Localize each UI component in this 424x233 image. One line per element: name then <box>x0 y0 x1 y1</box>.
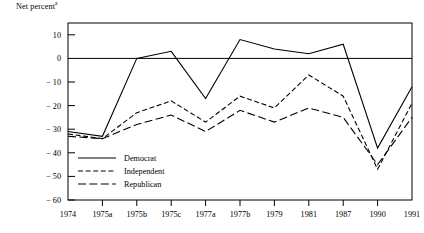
y-axis-ticks <box>68 35 75 200</box>
legend-label-independent: Independent <box>124 167 165 176</box>
y-tick-label: − 40 <box>46 149 61 158</box>
y-tick-label: − 50 <box>46 172 61 181</box>
x-tick-label: 1977a <box>196 210 216 219</box>
chart-plot-area: 100− 10− 20− 30− 40− 50− 60 19741975a197… <box>0 0 424 233</box>
x-tick-label: 1979 <box>266 210 282 219</box>
x-tick-label: 1987 <box>335 210 351 219</box>
x-axis-ticks <box>102 200 377 206</box>
y-tick-label: 10 <box>53 31 61 40</box>
chart-legend: DemocratIndependentRepublican <box>78 154 165 189</box>
data-series-group <box>68 40 412 170</box>
y-tick-label: − 10 <box>46 78 61 87</box>
series-line-republican <box>68 108 412 165</box>
x-tick-label: 1975b <box>127 210 147 219</box>
y-tick-label: − 30 <box>46 125 61 134</box>
legend-label-republican: Republican <box>124 180 161 189</box>
y-tick-label: − 20 <box>46 102 61 111</box>
x-tick-label: 1991 <box>404 210 420 219</box>
x-tick-label: 1975a <box>92 210 112 219</box>
x-tick-label: 1981 <box>301 210 317 219</box>
x-tick-label: 1990 <box>369 210 385 219</box>
y-tick-label: 0 <box>57 54 61 63</box>
y-axis-tick-labels: 100− 10− 20− 30− 40− 50− 60 <box>46 31 61 205</box>
plot-frame <box>68 23 412 200</box>
chart-container: Net percenta 100− 10− 20− 30− 40− 50− 60… <box>0 0 424 233</box>
x-tick-label: 1977b <box>230 210 250 219</box>
series-line-independent <box>68 75 412 169</box>
legend-label-democrat: Democrat <box>124 154 157 163</box>
x-tick-label: 1974 <box>60 210 76 219</box>
y-tick-label: − 60 <box>46 196 61 205</box>
x-axis-tick-labels: 19741975a1975b1975c1977a1977b19791981198… <box>60 210 420 219</box>
x-tick-label: 1975c <box>161 210 181 219</box>
